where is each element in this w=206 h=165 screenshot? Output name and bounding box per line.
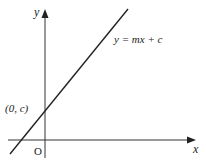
y-axis-arrow-icon	[42, 9, 49, 18]
line-graph-diagram: y x O y = mx + c (0, c)	[0, 0, 206, 165]
equation-label: y = mx + c	[113, 33, 163, 45]
origin-label: O	[34, 145, 42, 157]
y-intercept-label: (0, c)	[5, 102, 29, 115]
graph-line	[10, 9, 128, 154]
x-axis-label: x	[192, 142, 199, 156]
y-axis-label: y	[33, 5, 40, 19]
